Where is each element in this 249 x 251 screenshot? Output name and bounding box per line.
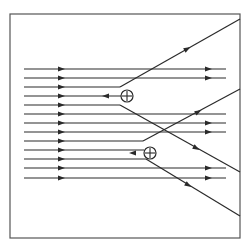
arrow-icon bbox=[205, 176, 212, 181]
field-line-diverging bbox=[143, 89, 240, 141]
field-lines-diagram bbox=[0, 0, 249, 251]
upper-charge bbox=[121, 90, 133, 102]
arrow-icon bbox=[102, 94, 109, 99]
arrow-icon bbox=[58, 103, 65, 108]
arrow-icon bbox=[205, 166, 212, 171]
arrow-icon bbox=[58, 139, 65, 144]
arrow-icon bbox=[58, 157, 65, 162]
arrow-icon bbox=[58, 85, 65, 90]
arrow-icon bbox=[205, 76, 212, 81]
arrow-icon bbox=[58, 121, 65, 126]
arrow-icon bbox=[205, 67, 212, 72]
field-line-diverging bbox=[120, 105, 240, 172]
diagram-frame bbox=[10, 14, 240, 238]
arrow-icon bbox=[183, 45, 192, 53]
arrow-icon bbox=[58, 176, 65, 181]
arrow-icon bbox=[58, 112, 65, 117]
arrow-icon bbox=[58, 166, 65, 171]
field-line-diverging bbox=[120, 19, 240, 87]
field-lines bbox=[24, 19, 240, 216]
arrow-icon bbox=[58, 130, 65, 135]
lower-charge bbox=[144, 147, 156, 159]
arrow-icon bbox=[205, 130, 212, 135]
arrow-icon bbox=[58, 76, 65, 81]
arrow-icon bbox=[58, 148, 65, 153]
arrow-icon bbox=[205, 121, 212, 126]
arrow-icon bbox=[58, 94, 65, 99]
arrow-icon bbox=[129, 151, 136, 156]
arrow-icon bbox=[58, 67, 65, 72]
